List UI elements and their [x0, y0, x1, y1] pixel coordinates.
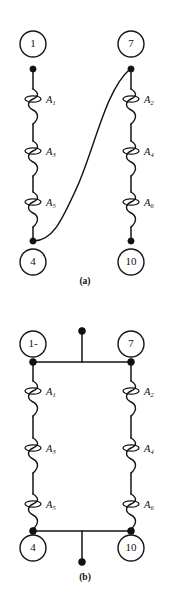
- panel-a-node-4: 4: [20, 249, 46, 275]
- panel-a-node-7: 7: [118, 31, 144, 57]
- coil-winding: [127, 381, 136, 416]
- coil-label-subscript: 6: [150, 504, 154, 511]
- node-label: 4: [30, 541, 36, 553]
- panel-b-node-4: 4: [20, 535, 46, 561]
- panel-a-coil-label-a2: A2: [143, 94, 154, 106]
- coil-winding: [29, 494, 38, 529]
- winding-diagram-svg: 1 7 4 10: [0, 0, 178, 607]
- coil-winding: [29, 192, 38, 227]
- panel-a-coil-a1: [25, 89, 41, 124]
- panel-b-coil-label-a5: A5: [45, 499, 56, 511]
- panel-b-coil-a2: [123, 381, 139, 416]
- panel-b: 1- 7 4 10: [20, 328, 154, 584]
- panel-a-coil-label-a1: A1: [45, 94, 56, 106]
- panel-b-junction-dot-top-left: [30, 359, 37, 366]
- panel-b-coil-label-a1: A1: [45, 386, 56, 398]
- figure-root: 1 7 4 10: [0, 0, 178, 607]
- node-label: 1-: [28, 337, 38, 349]
- panel-b-coil-a3: [25, 438, 41, 473]
- coil-winding: [29, 141, 38, 176]
- coil-winding: [127, 89, 136, 124]
- coil-label-subscript: 3: [51, 448, 56, 455]
- panel-b-left-branch: [25, 362, 41, 531]
- panel-b-coil-a6: [123, 494, 139, 529]
- panel-a-coil-a5: [25, 192, 41, 227]
- panel-a-caption: (a): [79, 276, 90, 287]
- panel-a-node-10: 10: [118, 249, 144, 275]
- panel-a-coil-a2: [123, 89, 139, 124]
- coil-label-subscript: 5: [52, 504, 56, 511]
- panel-b-node-10: 10: [118, 535, 144, 561]
- panel-b-junction-dot-bottom-right: [128, 528, 135, 535]
- panel-b-coil-label-a4: A4: [143, 443, 154, 455]
- terminal-dot-node-4: [30, 238, 36, 244]
- node-label: 1: [30, 37, 36, 49]
- terminal-dot-node-10: [128, 238, 134, 244]
- panel-b-node-1: 1-: [20, 331, 46, 357]
- panel-b-coil-a5: [25, 494, 41, 529]
- coil-winding: [127, 141, 136, 176]
- panel-b-bottom-center-lead-dot: [79, 559, 86, 566]
- coil-winding: [127, 438, 136, 473]
- panel-b-coil-a4: [123, 438, 139, 473]
- panel-b-coil-a1: [25, 381, 41, 416]
- panel-a-coil-a4: [123, 141, 139, 176]
- coil-label-subscript: 4: [150, 448, 154, 455]
- panel-a-coil-a3: [25, 141, 41, 176]
- panel-b-coil-label-a2: A2: [143, 386, 154, 398]
- coil-label-subscript: 1: [52, 391, 55, 398]
- panel-b-coil-label-a3: A3: [45, 443, 56, 455]
- node-label: 10: [126, 255, 138, 267]
- panel-b-junction-dot-bottom-left: [30, 528, 37, 535]
- coil-label-subscript: 4: [150, 151, 154, 158]
- coil-winding: [29, 438, 38, 473]
- panel-b-node-7: 7: [118, 331, 144, 357]
- terminal-dot-node-7: [128, 66, 134, 72]
- coil-winding: [127, 494, 136, 529]
- panel-a-node-1: 1: [20, 31, 46, 57]
- coil-label-subscript: 1: [52, 99, 55, 106]
- panel-b-caption: (b): [79, 572, 91, 583]
- panel-b-top-center-lead-dot: [79, 328, 86, 335]
- panel-b-junction-dot-top-right: [128, 359, 135, 366]
- node-label: 4: [30, 255, 36, 267]
- panel-b-right-branch: [123, 362, 139, 531]
- panel-a-coil-label-a6: A6: [143, 197, 154, 209]
- coil-label-subscript: 2: [150, 99, 154, 106]
- node-label: 7: [128, 37, 134, 49]
- panel-b-coil-label-a6: A6: [143, 499, 154, 511]
- coil-label-subscript: 6: [150, 202, 154, 209]
- coil-winding: [29, 89, 38, 124]
- panel-a: 1 7 4 10: [20, 31, 154, 287]
- coil-winding: [29, 381, 38, 416]
- panel-a-coil-label-a5: A5: [45, 197, 56, 209]
- node-label: 7: [128, 337, 134, 349]
- panel-a-right-branch: [123, 69, 139, 241]
- coil-label-subscript: 2: [150, 391, 154, 398]
- panel-a-coil-label-a4: A4: [143, 146, 154, 158]
- coil-label-subscript: 3: [51, 151, 56, 158]
- node-label: 10: [126, 541, 138, 553]
- panel-a-coil-label-a3: A3: [45, 146, 56, 158]
- panel-a-left-branch: [25, 69, 41, 241]
- panel-a-coil-a6: [123, 192, 139, 227]
- coil-winding: [127, 192, 136, 227]
- terminal-dot-node-1: [30, 66, 36, 72]
- coil-label-subscript: 5: [52, 202, 56, 209]
